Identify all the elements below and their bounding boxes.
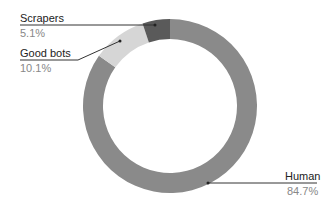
label-human: Human (285, 170, 320, 182)
donut-slices (83, 19, 257, 193)
dot-human (207, 182, 210, 185)
slice-good-bots (99, 23, 149, 67)
dot-scrapers (154, 24, 157, 27)
label-good-bots: Good bots (20, 47, 71, 59)
label-scrapers: Scrapers (20, 12, 64, 24)
value-scrapers: 5.1% (20, 27, 45, 39)
value-good-bots: 10.1% (20, 62, 51, 74)
dot-good-bots (119, 40, 122, 43)
value-human: 84.7% (287, 185, 318, 197)
